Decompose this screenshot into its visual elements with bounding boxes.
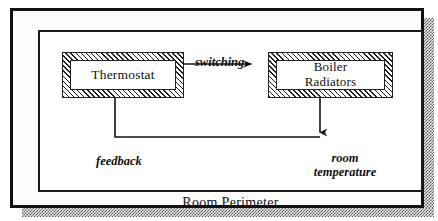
edge-label-room-temperature: room temperature (299, 151, 391, 179)
node-thermostat-body: Thermostat (70, 60, 176, 90)
node-boiler-radiators-label: Boiler Radiators (305, 60, 357, 89)
node-boiler-radiators[interactable]: Boiler Radiators (268, 52, 393, 98)
node-boiler-radiators-label-line1: Boiler (314, 59, 348, 74)
edge-label-feedback: feedback (96, 154, 142, 168)
room-perimeter-caption: Room Perimeter (38, 195, 423, 211)
edge-label-switching: switching (195, 55, 244, 69)
edge-label-room-temperature-line1: room (331, 151, 358, 165)
node-boiler-radiators-label-line2: Radiators (305, 74, 357, 89)
node-boiler-radiators-body: Boiler Radiators (276, 60, 385, 90)
diagram-canvas: Thermostat Boiler Radiators switching fe… (0, 0, 438, 221)
outer-frame-border: Thermostat Boiler Radiators switching fe… (10, 8, 424, 208)
node-thermostat[interactable]: Thermostat (62, 52, 184, 98)
edge-label-room-temperature-line2: temperature (314, 165, 377, 179)
frame-drop-shadow-right (424, 18, 434, 217)
node-thermostat-label: Thermostat (91, 67, 154, 82)
